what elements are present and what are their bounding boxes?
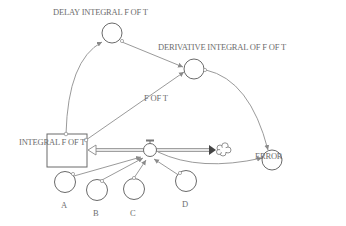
flow-inlet-arrowhead bbox=[88, 145, 96, 155]
label-c: C bbox=[130, 209, 135, 218]
aux-b[interactable] bbox=[87, 180, 108, 201]
link-d-to-fot[interactable] bbox=[154, 159, 180, 176]
valve-f-of-t[interactable] bbox=[144, 140, 157, 157]
label-f-of-t: F OF T bbox=[144, 94, 168, 103]
label-derivative-integral: DERIVATIVE INTEGRAL OF F OF T bbox=[158, 43, 286, 52]
label-error: ERROR bbox=[255, 152, 282, 161]
stock-connector-top bbox=[64, 132, 68, 136]
label-b: B bbox=[93, 209, 98, 218]
label-a: A bbox=[61, 201, 67, 210]
link-integral-to-derivative[interactable] bbox=[86, 72, 184, 140]
stock-flow-diagram bbox=[0, 0, 346, 226]
label-d: D bbox=[182, 200, 188, 209]
causal-links bbox=[66, 42, 268, 180]
aux-c[interactable] bbox=[124, 179, 145, 200]
link-b-to-fot[interactable] bbox=[102, 158, 143, 180]
label-integral-f-of-t: INTEGRAL F OF T bbox=[19, 138, 85, 147]
flow-outlet-arrowhead bbox=[209, 145, 216, 155]
link-c-to-fot[interactable] bbox=[134, 160, 146, 178]
aux-derivative-integral[interactable] bbox=[184, 59, 204, 79]
aux-delay-integral[interactable] bbox=[102, 23, 122, 43]
link-derivative-to-error[interactable] bbox=[206, 70, 268, 150]
cloud-sink-icon bbox=[217, 143, 232, 156]
link-integral-to-delay[interactable] bbox=[66, 42, 102, 134]
label-delay-integral: DELAY INTEGRAL F OF T bbox=[53, 8, 148, 17]
